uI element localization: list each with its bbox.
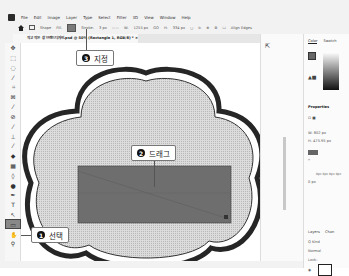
gradient-tool-icon[interactable]: ▦ <box>5 161 21 171</box>
color-panel-tabs: Color Swatch <box>304 34 349 49</box>
menu-layer[interactable]: Layer <box>66 15 77 20</box>
lock-label: Lock: <box>308 258 317 262</box>
fill-label: Fill: <box>56 26 62 30</box>
path-select-tool-icon[interactable]: ↖ <box>5 210 21 220</box>
stroke-width-input[interactable]: 3 px <box>99 26 107 30</box>
blur-tool-icon[interactable]: ◊ <box>5 170 21 180</box>
stroke-type-select[interactable]: —— <box>112 26 119 30</box>
step-3-label: 지정 <box>94 53 108 64</box>
tools-panel: ✥ ⬚ ◌ ⁄ ⌗ ⊠ ⁄ ⊘ ⁄ ⊥ ⁄ ◆ ▦ ◊ ● ✒ T ↖ ▭ ✋ … <box>5 43 21 261</box>
properties-stroke[interactable]: 0 px <box>308 180 316 184</box>
path-arrangement-icon[interactable]: ⊕ <box>206 26 209 30</box>
clone-stamp-tool-icon[interactable]: ⊥ <box>5 131 21 141</box>
callout-3-leader <box>86 29 87 51</box>
gamut-warning-icon: ▲■ <box>308 74 317 80</box>
properties-height[interactable]: H: 475.95 px <box>308 139 331 143</box>
home-icon[interactable] <box>18 25 24 31</box>
hand-tool-icon[interactable]: ✋ <box>5 229 21 239</box>
shape-mode-select[interactable]: Shape <box>40 26 51 30</box>
corner-radius-values[interactable]: 0px 0px 0px 0px <box>316 172 341 176</box>
menu-select[interactable]: Select <box>98 15 110 20</box>
callout-2-leader <box>154 161 155 187</box>
align-edges-label: Align Edges <box>231 26 252 30</box>
pen-tool-icon[interactable]: ✒ <box>5 190 21 200</box>
menu-type[interactable]: Type <box>83 15 92 20</box>
frame-tool-icon[interactable]: ⊠ <box>5 92 21 102</box>
step-number-3: 3 <box>82 54 90 62</box>
callout-1-leader <box>21 235 31 236</box>
link-dimensions-button[interactable]: GO <box>153 26 159 30</box>
zoom-tool-icon[interactable]: ⚲ <box>5 239 21 249</box>
photoshop-logo-icon <box>8 14 15 21</box>
healing-tool-icon[interactable]: ⊘ <box>5 112 21 122</box>
path-alignment-icon[interactable]: ⊫ <box>198 26 201 30</box>
menu-3d[interactable]: 3D <box>133 15 139 20</box>
path-operations-icon[interactable]: ◻ <box>190 26 193 30</box>
callout-step-1: 1 선택 <box>31 227 69 243</box>
settings-gear-icon[interactable]: ⚙ <box>214 26 217 30</box>
properties-align-icon[interactable]: ⌗ <box>308 158 310 162</box>
properties-width[interactable]: W: 802 px <box>308 131 326 135</box>
tab-swatches[interactable]: Swatch <box>323 39 336 44</box>
document-tab[interactable]: 작고 작은 창 브랜드디자인.psd @ 50% (Rectangle 1, R… <box>13 34 138 43</box>
callout-step-3: 3 지정 <box>76 50 114 66</box>
panel-icon-strip: ⇱ <box>260 34 303 261</box>
width-input[interactable]: 1255 px <box>134 26 149 30</box>
eraser-tool-icon[interactable]: ◆ <box>5 151 21 161</box>
properties-fill-swatch[interactable] <box>308 150 318 155</box>
foreground-color-swatch[interactable] <box>308 52 316 60</box>
blend-mode-select[interactable]: Normal <box>308 249 321 253</box>
quick-select-tool-icon[interactable]: ⁄ <box>5 72 21 82</box>
menu-edit[interactable]: Edit <box>34 15 42 20</box>
dodge-tool-icon[interactable]: ● <box>5 180 21 190</box>
layers-panel-tabs: Layers Chan <box>308 230 334 234</box>
brush-tool-icon[interactable]: ⁄ <box>5 121 21 131</box>
menu-view[interactable]: View <box>144 15 154 20</box>
canvas-vertical-scrollbar[interactable] <box>283 137 286 210</box>
width-label: W: <box>124 26 129 30</box>
move-tool-icon[interactable]: ✥ <box>5 43 21 53</box>
fill-swatch[interactable] <box>67 24 76 32</box>
type-tool-icon[interactable]: T <box>5 200 21 210</box>
panel-collapse-icon[interactable]: ⇱ <box>265 42 270 49</box>
lasso-tool-icon[interactable]: ◌ <box>5 63 21 73</box>
shape-type-icons[interactable]: ⊡ ■ <box>308 116 316 120</box>
rectangle-tool-icon[interactable]: ▭ <box>5 219 21 229</box>
history-brush-tool-icon[interactable]: ⁄ <box>5 141 21 151</box>
layer-filter-kind[interactable]: Q Kind <box>308 240 320 244</box>
layer-visibility-eye-icon[interactable]: ◉ <box>308 268 311 272</box>
step-number-2: 2 <box>137 149 145 157</box>
menu-filter[interactable]: Filter <box>117 15 127 20</box>
callout-step-2: 2 드래그 <box>131 145 176 161</box>
eyedropper-tool-icon[interactable]: ⁄ <box>5 102 21 112</box>
step-number-1: 1 <box>37 231 45 239</box>
document-tab-title: 작고 작은 창 브랜드디자인.psd @ 50% (Rectangle 1, R… <box>27 36 134 40</box>
height-label: H: <box>164 26 168 30</box>
close-tab-icon[interactable]: × <box>135 36 138 40</box>
properties-panel-title: Properties <box>308 105 329 109</box>
tab-layers[interactable]: Layers <box>308 230 320 234</box>
tool-preset-picker[interactable] <box>29 25 35 30</box>
step-1-label: 선택 <box>49 230 63 241</box>
align-edges-checkbox[interactable]: ☐ <box>223 26 226 30</box>
menu-help[interactable]: Help <box>181 15 190 20</box>
layer-thumbnail[interactable] <box>318 264 332 276</box>
menu-image[interactable]: Image <box>47 15 60 20</box>
menu-window[interactable]: Window <box>160 15 176 20</box>
stroke-label: Stroke: <box>81 26 94 30</box>
crop-tool-icon[interactable]: ⌗ <box>5 82 21 92</box>
right-panels: Color Swatch ▲■ Properties ⊡ ■ W: 802 px… <box>303 34 349 268</box>
step-2-label: 드래그 <box>149 148 170 159</box>
tab-channels[interactable]: Chan <box>325 230 334 234</box>
height-input[interactable]: 334 px <box>173 26 185 30</box>
color-picker-gradient[interactable] <box>323 52 339 90</box>
menu-file[interactable]: File <box>21 15 28 20</box>
tab-color[interactable]: Color <box>308 39 317 44</box>
marquee-tool-icon[interactable]: ⬚ <box>5 53 21 63</box>
options-bar: Shape Fill: Stroke: 3 px —— W: 1255 px G… <box>0 21 349 34</box>
